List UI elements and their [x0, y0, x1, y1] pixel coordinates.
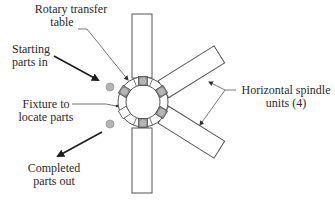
rotary-transfer-table	[118, 77, 168, 128]
spindle-unit-top	[132, 14, 152, 78]
completed-label-line2: parts out	[24, 175, 84, 188]
starting-part	[106, 83, 114, 91]
rotary-transfer-machine-diagram: Rotary transfer table Starting parts in …	[0, 0, 335, 206]
starting-parts-label: Starting parts in	[12, 43, 50, 69]
fixture-bottom	[139, 119, 148, 128]
spindle-leader-lower	[200, 90, 225, 125]
spindle-units-label: Horizontal spindle units (4)	[237, 84, 335, 110]
spindle-unit-bottom	[132, 128, 152, 193]
fixture-leader-dot	[116, 105, 119, 108]
rotary-table-label: Rotary transfer table	[26, 3, 116, 29]
spindle-label-line2: units (4)	[237, 97, 335, 110]
completed-part	[106, 120, 114, 128]
fixture-leader	[72, 104, 116, 106]
spindle-leader-upper	[209, 82, 236, 90]
fixture-label-line2: locate parts	[16, 111, 76, 124]
spindle-unit-upper-right	[158, 46, 225, 98]
rotary-table-label-line2: table	[26, 16, 116, 29]
spindle-unit-lower-right	[158, 106, 225, 158]
parts-out-arrow	[58, 132, 102, 156]
starting-label-line2: parts in	[12, 56, 50, 69]
fixture-top	[139, 77, 148, 86]
parts-in-arrow	[54, 56, 98, 80]
completed-parts-label: Completed parts out	[24, 162, 84, 188]
fixture-label: Fixture to locate parts	[16, 98, 76, 124]
